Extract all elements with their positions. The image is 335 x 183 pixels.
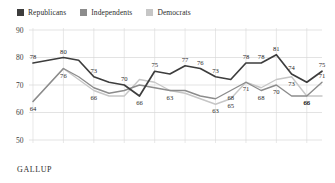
legend-item-democrats[interactable]: Democrats — [146, 8, 190, 17]
data-point-label: 76 — [197, 59, 204, 66]
legend-item-republicans[interactable]: Republicans — [17, 8, 66, 17]
legend-label: Independents — [91, 8, 132, 17]
data-point-label: 70 — [121, 75, 128, 82]
data-point-label: 66 — [136, 99, 143, 106]
data-point-label: 78 — [258, 53, 265, 60]
y-axis-tick-label: 60 — [16, 108, 24, 117]
data-point-label: 73 — [91, 67, 98, 74]
chart-legend: RepublicansIndependentsDemocrats — [17, 6, 191, 18]
data-point-label: 63 — [167, 94, 174, 101]
data-point-label: 63 — [212, 107, 219, 114]
y-axis-labels: 5060708090 — [16, 26, 24, 144]
y-axis-tick-label: 90 — [16, 26, 24, 35]
data-point-label: 78 — [243, 53, 250, 60]
data-point-label: 66 — [303, 99, 310, 106]
plot-area: 5060708090 78807370667577767378788174756… — [0, 22, 335, 144]
y-axis-tick-label: 80 — [16, 53, 24, 62]
legend-label: Republicans — [28, 8, 66, 17]
data-point-label: 81 — [273, 45, 280, 52]
data-point-label: 71 — [243, 85, 250, 92]
data-point-label: 73 — [288, 80, 295, 87]
legend-swatch-icon — [80, 9, 87, 16]
data-point-label: 73 — [212, 67, 219, 74]
legend-swatch-icon — [17, 9, 24, 16]
y-axis-tick-label: 70 — [16, 81, 24, 90]
data-point-label: 70 — [273, 88, 280, 95]
data-point-label: 77 — [182, 56, 189, 63]
legend-label: Democrats — [157, 8, 190, 17]
data-point-label: 80 — [60, 48, 67, 55]
data-point-label: 74 — [288, 64, 295, 71]
legend-item-independents[interactable]: Independents — [80, 8, 132, 17]
data-point-label: 78 — [30, 53, 37, 60]
data-point-label: 76 — [60, 72, 67, 79]
data-point-label: 65 — [227, 102, 234, 109]
series-lines — [33, 55, 322, 105]
data-point-label: 68 — [227, 94, 234, 101]
source-label: GALLUP — [17, 165, 52, 174]
gallup-line-chart: RepublicansIndependentsDemocrats 5060708… — [0, 0, 335, 183]
data-point-label: 75 — [319, 61, 326, 68]
data-point-label: 71 — [319, 72, 326, 79]
data-point-label: 75 — [151, 61, 158, 68]
point-labels: 7880737066757776737878817475687168706671… — [30, 45, 326, 115]
data-point-label: 68 — [258, 94, 265, 101]
legend-swatch-icon — [146, 9, 153, 16]
data-point-label: 66 — [91, 94, 98, 101]
y-axis-tick-label: 50 — [16, 136, 24, 144]
data-point-label: 64 — [30, 105, 37, 112]
plot-svg: 5060708090 78807370667577767378788174756… — [0, 22, 335, 144]
